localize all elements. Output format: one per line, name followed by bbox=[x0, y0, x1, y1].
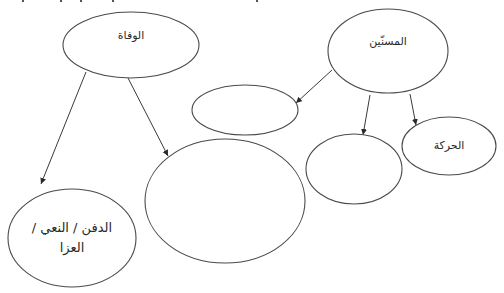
node-blank-3 bbox=[306, 134, 402, 204]
arrow-death-to-burial bbox=[41, 72, 86, 184]
node-blank-2 bbox=[145, 139, 305, 263]
arrow-elderly-to-movement bbox=[410, 94, 416, 125]
node-label-burial: الدفن / النعي / العزا bbox=[32, 218, 112, 258]
node-label-elderly: المسنّين bbox=[369, 33, 407, 50]
node-blank-1 bbox=[192, 85, 298, 135]
node-death bbox=[63, 12, 199, 78]
arrow-elderly-to-blank-1 bbox=[296, 70, 332, 103]
node-elderly bbox=[328, 9, 448, 93]
arrow-elderly-to-blank-3 bbox=[363, 95, 370, 135]
node-label-movement: الحركة bbox=[434, 137, 465, 154]
arrow-death-to-blank-2 bbox=[128, 78, 168, 156]
node-label-death: الوفاة bbox=[118, 27, 144, 44]
